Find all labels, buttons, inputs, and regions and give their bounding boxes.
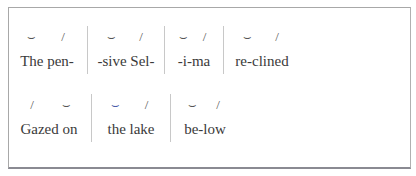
foot-text: re-clined (235, 48, 288, 74)
breve-icon: ⌣ (239, 26, 255, 48)
foot: / ⌣ Gazed on (15, 94, 91, 142)
ictus-icon: / (133, 26, 149, 48)
breve-icon: ⌣ (176, 26, 192, 48)
ictus-icon: / (269, 26, 285, 48)
breve-icon: ⌣ (23, 26, 39, 48)
foot-text: be-low (184, 116, 226, 142)
foot: ⌣ / The pen- (15, 26, 87, 74)
foot-text: Gazed on (20, 116, 77, 142)
breve-icon: ⌣ (58, 94, 74, 116)
foot-text: -sive Sel- (97, 48, 154, 74)
ictus-icon: / (197, 26, 213, 48)
scansion-panel: ⌣ / The pen- ⌣ / -sive Sel- ⌣ / -i-ma ⌣ (8, 7, 411, 169)
ictus-icon: / (55, 26, 71, 48)
ictus-icon: / (139, 94, 155, 116)
foot: ⌣ / -i-ma (165, 26, 223, 74)
breve-icon: ⌣ (108, 94, 124, 116)
foot: ⌣ / be-low (171, 94, 239, 142)
foot: ⌣ / the lake (92, 94, 170, 142)
verse-line-2: / ⌣ Gazed on ⌣ / the lake ⌣ / be-low (15, 94, 239, 142)
foot-text: -i-ma (178, 48, 210, 74)
foot-text: the lake (107, 116, 154, 142)
verse-line-1: ⌣ / The pen- ⌣ / -sive Sel- ⌣ / -i-ma ⌣ (15, 26, 300, 74)
foot: ⌣ / -sive Sel- (88, 26, 164, 74)
ictus-icon: / (210, 94, 226, 116)
foot: ⌣ / re-clined (224, 26, 300, 74)
foot-text: The pen- (20, 48, 74, 74)
ictus-icon: / (24, 94, 40, 116)
breve-icon: ⌣ (103, 26, 119, 48)
breve-icon: ⌣ (184, 94, 200, 116)
